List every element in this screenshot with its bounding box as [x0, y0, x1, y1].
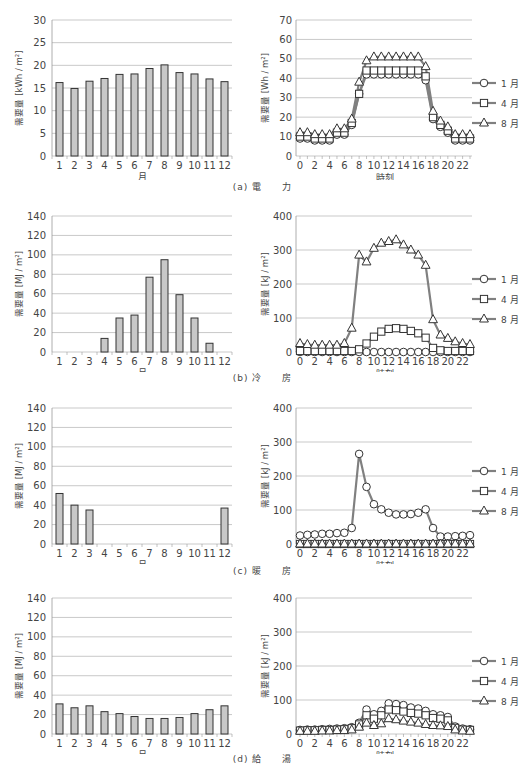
circle-marker [311, 531, 319, 539]
circle-marker [400, 511, 408, 519]
square-marker [378, 67, 385, 74]
y-tick-label: 120 [27, 230, 46, 241]
bar [56, 83, 63, 156]
y-axis-label: 需要量 [kJ / m²] [260, 444, 270, 508]
x-tick-label: 2 [71, 356, 77, 367]
y-tick-label: 300 [273, 437, 292, 448]
circle-marker [341, 529, 349, 537]
line-chart-c: 01002003004000246810121416182022時刻需要量 [k… [260, 388, 525, 564]
x-tick-label: 22 [456, 548, 469, 559]
figure-c: 020406080100120140123456789101112月需要量 [M… [0, 388, 525, 578]
y-tick-label: 80 [33, 651, 46, 662]
square-marker [415, 710, 422, 717]
legend: 1 月4 月8 月 [472, 467, 519, 517]
x-tick-label: 6 [341, 548, 347, 559]
bar [56, 704, 63, 734]
circle-marker [378, 348, 386, 356]
bar [86, 510, 93, 544]
circle-marker [385, 509, 393, 517]
bar [116, 714, 123, 734]
figure-a: 051015202530123456789101112月需要量 [kWh / m… [0, 0, 525, 196]
x-tick-label: 12 [218, 160, 231, 171]
y-tick-label: 0 [40, 729, 46, 740]
bar [116, 318, 123, 352]
bar [146, 277, 153, 352]
y-tick-label: 25 [33, 37, 46, 48]
y-tick-label: 400 [273, 211, 292, 222]
plot-area: 01002003004000246810121416182022時刻需要量 [k… [260, 403, 474, 565]
square-marker [378, 328, 385, 335]
circle-marker [400, 348, 408, 356]
square-marker [466, 347, 473, 354]
y-tick-label: 0 [40, 539, 46, 550]
bar [176, 717, 183, 734]
y-tick-label: 60 [33, 480, 46, 491]
x-tick-label: 6 [131, 356, 137, 367]
x-tick-label: 12 [382, 548, 395, 559]
x-tick-label: 2 [312, 738, 318, 749]
x-tick-label: 11 [203, 160, 216, 171]
x-tick-label: 12 [382, 356, 395, 367]
x-tick-label: 11 [203, 356, 216, 367]
y-tick-label: 0 [40, 151, 46, 162]
y-axis-label: 需要量 [MJ / m²] [14, 633, 24, 699]
legend: 1 月4 月8 月 [472, 275, 519, 325]
legend-label: 1 月 [501, 79, 519, 89]
square-marker [370, 67, 377, 74]
bar [206, 343, 213, 352]
x-tick-label: 8 [161, 738, 167, 749]
x-tick-label: 18 [427, 548, 440, 559]
bar [191, 74, 198, 156]
plot-area: 020406080100120140123456789101112月需要量 [M… [14, 403, 232, 565]
x-tick-label: 7 [146, 160, 152, 171]
circle-marker [407, 510, 415, 518]
y-tick-label: 100 [27, 631, 46, 642]
y-tick-label: 200 [273, 661, 292, 672]
x-tick-label: 11 [203, 548, 216, 559]
circle-marker [355, 450, 363, 458]
x-tick-label: 16 [412, 160, 425, 171]
circle-marker [480, 275, 488, 283]
plot-area: 020406080100120140123456789101112月需要量 [M… [14, 593, 232, 755]
x-tick-label: 3 [86, 738, 92, 749]
y-tick-label: 60 [33, 288, 46, 299]
x-tick-label: 6 [341, 738, 347, 749]
bar-chart-d: 020406080100120140123456789101112月需要量 [M… [0, 578, 260, 754]
bar [101, 338, 108, 352]
square-marker [444, 347, 451, 354]
bar [191, 318, 198, 352]
x-tick-label: 8 [356, 160, 362, 171]
y-axis-label: 需要量 [Wh / m²] [260, 53, 270, 123]
x-tick-label: 12 [382, 160, 395, 171]
triangle-marker [347, 323, 356, 331]
square-marker [363, 67, 370, 74]
x-tick-label: 4 [101, 548, 107, 559]
x-tick-label: 3 [86, 356, 92, 367]
square-marker [429, 344, 436, 351]
legend-label: 1 月 [501, 467, 519, 477]
x-tick-label: 6 [131, 738, 137, 749]
bar [176, 73, 183, 156]
y-tick-label: 50 [279, 53, 292, 64]
y-tick-label: 10 [279, 131, 292, 142]
x-tick-label: 10 [188, 738, 201, 749]
x-tick-label: 8 [161, 356, 167, 367]
x-tick-label: 0 [297, 160, 303, 171]
bar [146, 69, 153, 156]
circle-marker [370, 348, 378, 356]
circle-marker [480, 657, 488, 665]
bar-chart-b: 020406080100120140123456789101112月需要量 [M… [0, 196, 260, 372]
bar [86, 706, 93, 734]
bar [131, 717, 138, 734]
plot-area: 020406080100120140123456789101112月需要量 [M… [14, 211, 232, 373]
square-marker [296, 347, 303, 354]
plot-area: 01002003004000246810121416182022時刻需要量 [k… [260, 211, 474, 373]
x-tick-label: 8 [161, 548, 167, 559]
y-tick-label: 70 [279, 15, 292, 26]
triangle-marker [384, 714, 393, 722]
x-tick-label: 2 [71, 548, 77, 559]
square-marker [348, 347, 355, 354]
x-tick-label: 9 [176, 738, 182, 749]
square-marker [363, 340, 370, 347]
triangle-marker [392, 235, 401, 243]
